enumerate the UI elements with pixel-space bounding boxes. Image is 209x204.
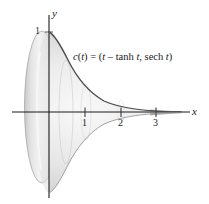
equation-part-equals: = ( xyxy=(88,51,103,62)
equation-part-minus-tanh: – tanh xyxy=(105,51,136,62)
x-tick-label-2: 2 xyxy=(118,118,123,128)
x-tick-label-1: 1 xyxy=(82,118,87,128)
x-tick-label-3: 3 xyxy=(153,118,158,128)
pseudosphere-figure: x y 1 1 2 3 c(t) = (t – tanh t, sech t) xyxy=(0,0,209,204)
figure-canvas xyxy=(0,0,209,204)
equation-part-close-paren-2: ) xyxy=(169,51,173,62)
y-tick-label-1: 1 xyxy=(35,26,40,36)
x-axis-label: x xyxy=(192,106,197,117)
curve-equation-label: c(t) = (t – tanh t, sech t) xyxy=(73,52,172,63)
y-axis-label: y xyxy=(52,8,57,19)
equation-part-comma-sech: , sech xyxy=(139,51,166,62)
